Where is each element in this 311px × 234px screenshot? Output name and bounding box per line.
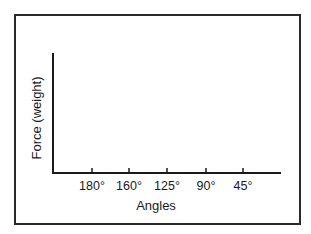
x-axis-label: Angles [136, 198, 176, 213]
x-tick-label: 160° [116, 179, 142, 193]
x-tick-label: 180° [79, 179, 105, 193]
x-tick-label: 90° [197, 179, 216, 193]
y-axis-label: Force (weight) [29, 76, 44, 159]
x-tick-label: 125° [154, 179, 180, 193]
x-tick-label: 45° [234, 179, 253, 193]
